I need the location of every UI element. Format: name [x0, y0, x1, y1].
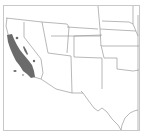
range-patch-east: [33, 60, 35, 62]
ia-border: [133, 6, 138, 36]
range-fill: [7, 34, 35, 78]
rio-grande: [83, 93, 121, 130]
range-patch-sierra: [23, 46, 28, 55]
range-patch-island-2: [22, 74, 23, 76]
ne-sd-border: [102, 21, 133, 24]
range-main-california: [7, 34, 35, 78]
ne-ks-border: [100, 29, 136, 31]
nm-mexico-border: [72, 91, 83, 93]
wy-co-border: [67, 27, 98, 29]
range-patch-island: [13, 70, 16, 72]
wy-ne-border: [98, 6, 101, 46]
ok-tx-border: [104, 58, 139, 71]
nv-id-border: [42, 22, 67, 24]
az-mexico-border: [41, 79, 72, 93]
nv-ut-border: [42, 22, 48, 53]
ca-or-border: [6, 18, 42, 22]
range-map-frame: [3, 5, 140, 131]
range-patch-north: [16, 37, 19, 39]
range-map: [4, 6, 140, 131]
ut-west-line: [67, 24, 69, 53]
texas-coast: [121, 110, 138, 130]
nv-az-border: [48, 53, 71, 56]
co-nm-border: [74, 57, 102, 58]
co-ks-border: [101, 45, 104, 58]
az-nm-border: [71, 56, 72, 93]
